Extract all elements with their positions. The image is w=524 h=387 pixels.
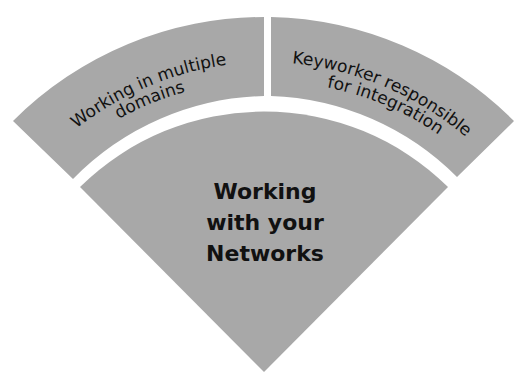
center-title-line-1: Working <box>213 179 316 204</box>
center-title-line-2: with your <box>206 210 324 235</box>
center-title-line-3: Networks <box>206 241 324 266</box>
fan-diagram: Working in multiple domains Keyworker re… <box>0 0 524 387</box>
